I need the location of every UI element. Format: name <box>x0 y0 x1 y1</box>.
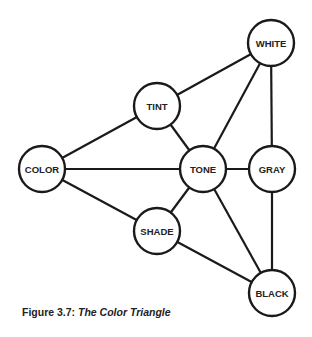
node-color: COLOR <box>19 146 65 192</box>
node-white: WHITE <box>248 20 294 66</box>
node-tint: TINT <box>134 83 180 129</box>
node-label: WHITE <box>256 38 287 49</box>
node-label: BLACK <box>255 288 288 299</box>
node-label: COLOR <box>25 164 59 175</box>
node-shade: SHADE <box>134 208 180 254</box>
color-triangle-diagram: WHITETINTCOLORTONEGRAYSHADEBLACK <box>0 0 312 337</box>
node-label: TINT <box>146 101 167 112</box>
node-black: BLACK <box>249 270 295 316</box>
node-label: TONE <box>190 164 216 175</box>
node-label: SHADE <box>140 226 173 237</box>
node-tone: TONE <box>180 146 226 192</box>
caption-prefix: Figure 3.7: <box>22 306 78 318</box>
figure-caption: Figure 3.7: The Color Triangle <box>22 306 171 318</box>
edges <box>42 43 272 293</box>
node-gray: GRAY <box>249 146 295 192</box>
node-label: GRAY <box>259 164 286 175</box>
caption-title: The Color Triangle <box>78 306 171 318</box>
